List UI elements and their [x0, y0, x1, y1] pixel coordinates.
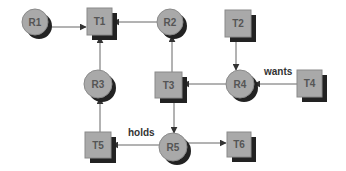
task-t4: T4 [297, 70, 327, 102]
resource-r5: R5 [159, 133, 191, 165]
task-t5: T5 [85, 132, 116, 163]
resource-label: R1 [29, 17, 42, 28]
resource-r3: R3 [84, 70, 116, 102]
task-label: T1 [94, 16, 106, 27]
resource-r1: R1 [22, 9, 52, 39]
resource-allocation-diagram: R1 R2 R3 R4 R5 T1 T2 T3 T4 [0, 0, 346, 171]
task-t6: T6 [227, 132, 256, 162]
task-label: T6 [233, 139, 245, 150]
edge-label-holds: holds [128, 127, 155, 138]
task-label: T4 [304, 78, 316, 89]
resource-label: R2 [164, 17, 177, 28]
task-t3: T3 [155, 72, 187, 103]
resource-r4: R4 [226, 70, 258, 102]
task-t2: T2 [225, 10, 256, 42]
task-t1: T1 [87, 8, 117, 40]
resource-label: R5 [167, 142, 180, 153]
task-label: T5 [92, 140, 104, 151]
resource-r2: R2 [157, 9, 187, 39]
resource-label: R3 [92, 79, 105, 90]
task-label: T3 [163, 80, 175, 91]
task-label: T2 [232, 18, 244, 29]
resource-label: R4 [234, 79, 247, 90]
edge-label-wants: wants [263, 66, 293, 77]
